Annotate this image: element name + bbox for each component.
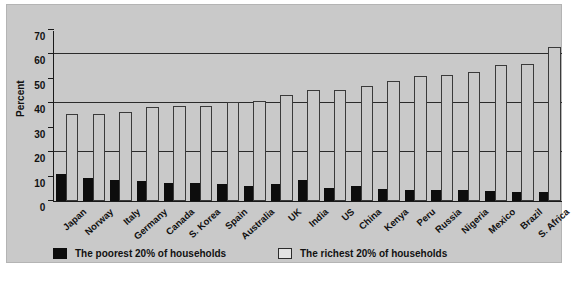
bar-richest — [334, 90, 347, 201]
bar-poorest — [485, 191, 495, 201]
bar-poorest — [110, 180, 120, 201]
bar-group — [298, 30, 321, 201]
bar-group — [110, 30, 133, 201]
legend-label-richest: The richest 20% of households — [300, 248, 447, 259]
y-tick-40 — [48, 102, 54, 103]
bar-group — [539, 30, 562, 201]
y-tick-30 — [48, 127, 54, 128]
bar-poorest — [83, 178, 93, 201]
bar-group — [271, 30, 294, 201]
y-tick-10 — [48, 176, 54, 177]
bar-richest — [200, 106, 213, 201]
chart-legend: The poorest 20% of households The riches… — [53, 248, 483, 264]
y-axis-title: Percent — [15, 80, 26, 117]
x-axis-label-s-africa: S. Africa — [519, 206, 571, 254]
bar-group — [164, 30, 187, 201]
bar-poorest — [164, 183, 174, 201]
bar-poorest — [512, 192, 522, 201]
bar-group — [244, 30, 267, 201]
y-tick-50 — [48, 78, 54, 79]
bar-poorest — [431, 190, 441, 201]
bar-group — [431, 30, 454, 201]
y-tick-0 — [48, 200, 54, 201]
bar-richest — [521, 64, 534, 201]
bar-group — [56, 30, 79, 201]
bar-richest — [119, 112, 132, 201]
bar-poorest — [244, 186, 254, 201]
bar-poorest — [137, 181, 147, 201]
bar-richest — [441, 75, 454, 201]
bar-group — [458, 30, 481, 201]
bar-poorest — [271, 184, 281, 201]
legend-label-poorest: The poorest 20% of households — [75, 248, 226, 259]
bar-poorest — [217, 184, 227, 201]
legend-swatch-richest-icon — [278, 248, 292, 259]
bar-richest — [468, 72, 481, 201]
bar-richest — [280, 95, 293, 201]
bar-group — [137, 30, 160, 201]
plot-area: 010203040506070 JapanNorwayItalyGermanyC… — [53, 31, 562, 202]
bar-richest — [387, 81, 400, 201]
bar-poorest — [190, 183, 200, 201]
bar-richest — [227, 102, 240, 201]
legend-item-poorest[interactable]: The poorest 20% of households — [53, 248, 226, 259]
bar-poorest — [56, 174, 66, 201]
bar-poorest — [458, 190, 468, 201]
bar-richest — [414, 76, 427, 201]
bar-poorest — [351, 186, 361, 201]
bar-poorest — [539, 192, 549, 201]
bar-group — [378, 30, 401, 201]
bar-richest — [253, 101, 266, 201]
bar-richest — [173, 106, 186, 201]
bar-group — [512, 30, 535, 201]
bar-group — [83, 30, 106, 201]
bar-richest — [548, 47, 561, 201]
bar-group — [351, 30, 374, 201]
legend-swatch-poorest-icon — [53, 248, 67, 259]
bar-richest — [66, 114, 79, 201]
bar-group — [405, 30, 428, 201]
chart-figure: Percent 010203040506070 JapanNorwayItaly… — [0, 0, 572, 283]
bar-group — [485, 30, 508, 201]
bar-group — [190, 30, 213, 201]
bar-poorest — [324, 188, 334, 201]
bar-richest — [495, 65, 508, 201]
bar-group — [324, 30, 347, 201]
bar-richest — [361, 86, 374, 201]
bar-richest — [146, 107, 159, 201]
legend-item-richest[interactable]: The richest 20% of households — [278, 248, 447, 259]
chart-panel: Percent 010203040506070 JapanNorwayItaly… — [6, 4, 562, 263]
bar-poorest — [378, 189, 388, 201]
y-tick-60 — [48, 53, 54, 54]
bar-poorest — [405, 190, 415, 201]
y-tick-20 — [48, 151, 54, 152]
bar-richest — [307, 90, 320, 201]
bar-poorest — [298, 180, 308, 201]
y-tick-70 — [48, 29, 54, 30]
bar-richest — [93, 114, 106, 201]
bar-group — [217, 30, 240, 201]
